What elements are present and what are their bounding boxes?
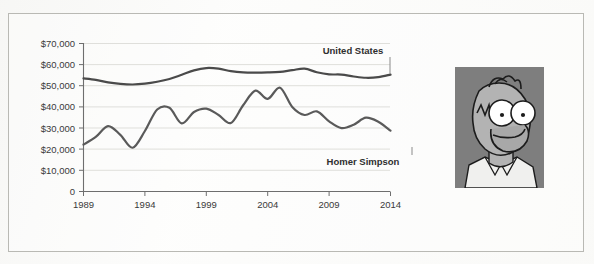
y-axis-ticks [79, 44, 84, 192]
y-axis-labels: $70,000 $60,000 $50,000 $40,000 $30,000 … [41, 38, 75, 197]
x-axis-labels: 1989 1994 1999 2004 2009 2014 [73, 199, 401, 210]
y-tick-label: $40,000 [41, 101, 75, 112]
united-states-label: United States [323, 45, 384, 56]
x-axis-ticks [84, 192, 391, 197]
series-line-united-states [84, 68, 391, 85]
x-tick-label: 2009 [319, 199, 340, 210]
y-tick-label: $70,000 [41, 38, 75, 49]
homer-simpson-illustration [455, 67, 544, 188]
x-tick-label: 2014 [380, 199, 401, 210]
x-tick-label: 1989 [73, 199, 94, 210]
x-tick-label: 1994 [134, 199, 155, 210]
y-tick-label: $30,000 [41, 123, 75, 134]
right-pupil [521, 113, 525, 117]
x-tick-label: 2004 [257, 199, 278, 210]
gridlines [83, 44, 390, 171]
y-tick-label: $60,000 [41, 59, 75, 70]
y-tick-label: $20,000 [41, 144, 75, 155]
series-line-homer-simpson [84, 88, 391, 148]
left-pupil [500, 113, 504, 117]
x-tick-label: 1999 [196, 199, 217, 210]
y-tick-label: $10,000 [41, 165, 75, 176]
y-tick-label: $50,000 [41, 80, 75, 91]
homer-simpson-portrait [455, 67, 544, 188]
homer-simpson-label: Homer Simpson [327, 156, 400, 167]
y-tick-label: 0 [70, 186, 75, 197]
